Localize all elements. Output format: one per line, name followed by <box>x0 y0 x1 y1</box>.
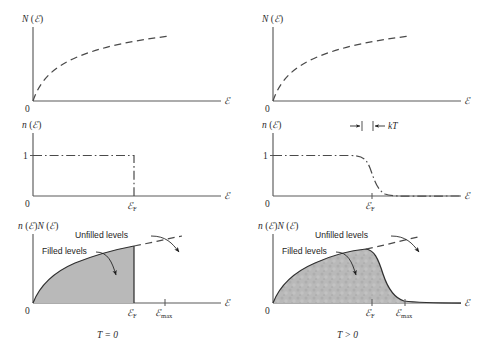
x-axis-label-middle-right: ℰ <box>464 191 471 201</box>
y-axis-label-density-left: N (ℰ) <box>21 14 43 25</box>
origin-label-middle-right: 0 <box>265 199 270 209</box>
fermi-energy-label-bottom-left: ℰF <box>127 308 137 319</box>
x-axis-label-bottom-left: ℰ <box>224 298 231 308</box>
max-energy-label-bottom-left: ℰmax <box>155 308 173 319</box>
occupancy-step-curve-left <box>33 156 134 197</box>
density-of-states-curve-left <box>33 36 170 101</box>
x-axis-label-middle-left: ℰ <box>224 191 231 201</box>
origin-label-bottom-right: 0 <box>265 306 270 316</box>
panel-middle-right-occupancy: n (ℰ) 1 kT 0 ℰF ℰ <box>262 120 471 212</box>
x-axis-label-top-left: ℰ <box>224 96 231 106</box>
y-tick-label-one-left: 1 <box>23 151 28 161</box>
filled-levels-label-left: Filled levels <box>42 246 87 256</box>
y-axis-label-density-right: N (ℰ) <box>261 14 283 25</box>
fermi-dirac-figure: N (ℰ) 0 ℰ N (ℰ) 0 ℰ n (ℰ) 1 0 ℰF ℰ <box>0 0 480 348</box>
filled-levels-label-right: Filled levels <box>282 246 327 256</box>
x-axis-label-bottom-right: ℰ <box>464 298 471 308</box>
kt-label: kT <box>388 121 398 131</box>
filled-levels-region-right <box>273 249 461 303</box>
unfilled-levels-dashed-left <box>134 236 182 246</box>
y-axis-label-occupancy-right: n (ℰ) <box>262 120 281 131</box>
unfilled-levels-dashed-right <box>366 236 422 249</box>
y-axis-label-occupancy-left: n (ℰ) <box>22 120 41 131</box>
y-axis-label-product-right: n (ℰ)N (ℰ) <box>258 221 299 232</box>
fermi-energy-label-bottom-right: ℰF <box>365 308 375 319</box>
y-axis-label-product-left: n (ℰ)N (ℰ) <box>18 221 59 232</box>
unfilled-levels-label-left: Unfilled levels <box>75 230 128 240</box>
caption-left: T = 0 <box>97 330 118 340</box>
fermi-energy-label-middle-left: ℰF <box>127 201 137 212</box>
fermi-function-curve-right <box>273 156 461 197</box>
panel-bottom-left-occupied-levels: n (ℰ)N (ℰ) Unfilled levels Filled levels… <box>18 221 231 340</box>
max-energy-label-bottom-right: ℰmax <box>395 308 413 319</box>
origin-label-middle-left: 0 <box>25 199 30 209</box>
unfilled-levels-label-right: Unfilled levels <box>315 230 368 240</box>
panel-top-right-density-of-states: N (ℰ) 0 ℰ <box>261 14 471 114</box>
y-tick-label-one-right: 1 <box>263 151 268 161</box>
origin-label-top-right: 0 <box>265 104 270 114</box>
origin-label-top-left: 0 <box>25 104 30 114</box>
x-axis-label-top-right: ℰ <box>464 96 471 106</box>
panel-bottom-right-occupied-levels: n (ℰ)N (ℰ) Unfilled levels Filled levels… <box>258 221 471 340</box>
panel-middle-left-occupancy: n (ℰ) 1 0 ℰF ℰ <box>22 120 231 212</box>
unfilled-levels-leader-left <box>151 236 179 252</box>
fermi-energy-label-middle-right: ℰF <box>365 201 375 212</box>
unfilled-levels-leader-right <box>391 236 419 252</box>
panel-top-left-density-of-states: N (ℰ) 0 ℰ <box>21 14 231 114</box>
origin-label-bottom-left: 0 <box>25 306 30 316</box>
density-of-states-curve-right <box>273 36 410 101</box>
kt-width-indicator: kT <box>350 121 398 131</box>
caption-right: T > 0 <box>337 330 358 340</box>
